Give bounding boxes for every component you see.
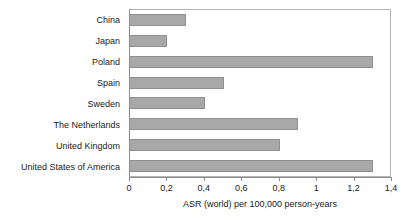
x-axis-tick-label: 0,2 [160, 183, 173, 194]
category-label: Poland [0, 51, 125, 72]
plot-area [129, 9, 391, 177]
category-axis-labels: China Japan Poland Spain Sweden The Neth… [0, 9, 125, 177]
bar-row [130, 93, 390, 114]
bar-row [130, 155, 390, 176]
x-axis-tick-label: 0,4 [198, 183, 211, 194]
bar [130, 118, 298, 130]
x-axis-tick [129, 177, 130, 181]
bar-row [130, 10, 390, 31]
bar-row [130, 135, 390, 156]
category-label: The Netherlands [0, 114, 125, 135]
bar [130, 77, 224, 89]
x-axis-tick [166, 177, 167, 181]
x-axis-tick [241, 177, 242, 181]
category-label: United Kingdom [0, 135, 125, 156]
x-axis-tick [391, 177, 392, 181]
category-label: China [0, 9, 125, 30]
x-axis-tick-label: 1,4 [385, 183, 398, 194]
x-axis-tick-label: 1 [314, 183, 319, 194]
x-axis-tick-label: 0,6 [235, 183, 248, 194]
x-axis-tick [204, 177, 205, 181]
x-axis-tick [354, 177, 355, 181]
bar-row [130, 52, 390, 73]
x-axis-tick-label: 0,8 [272, 183, 285, 194]
category-label: Spain [0, 72, 125, 93]
bars-container [130, 10, 390, 176]
x-axis-tick-label: 1,2 [347, 183, 360, 194]
bar [130, 160, 373, 172]
category-label: Japan [0, 30, 125, 51]
bar-row [130, 72, 390, 93]
category-label: United States of America [0, 156, 125, 177]
bar-row [130, 31, 390, 52]
bar [130, 97, 205, 109]
x-axis-title: ASR (world) per 100,000 person-years [129, 199, 391, 210]
x-axis-tick [279, 177, 280, 181]
bar-row [130, 114, 390, 135]
bar [130, 56, 373, 68]
x-axis-tick [316, 177, 317, 181]
x-axis-line [129, 177, 391, 178]
bar [130, 139, 280, 151]
bar [130, 14, 186, 26]
x-axis-tick-label: 0 [126, 183, 131, 194]
bar-chart: China Japan Poland Spain Sweden The Neth… [0, 0, 419, 221]
bar [130, 35, 167, 47]
category-label: Sweden [0, 93, 125, 114]
